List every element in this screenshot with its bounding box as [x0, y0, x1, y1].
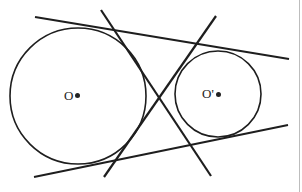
center-point-o-prime [216, 92, 221, 97]
image-border [299, 0, 300, 192]
external-tangent-bottom [34, 125, 288, 177]
center-label-o: O [64, 89, 73, 102]
center-label-o-prime: O' [202, 87, 214, 100]
diagram-svg [0, 0, 302, 192]
tangent-circles-diagram: O O' [0, 0, 302, 192]
center-point-o [75, 93, 80, 98]
external-tangent-top [35, 17, 289, 59]
